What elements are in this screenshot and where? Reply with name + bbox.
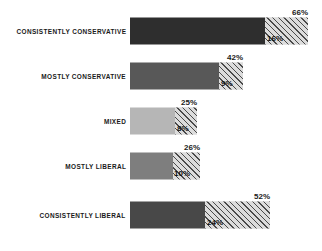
stacked-bar-chart: CONSISTENTLY CONSERVATIVE 66% 16% MOSTLY…	[0, 0, 322, 251]
bar-track: 25% 8%	[130, 107, 197, 134]
bar-total-label: 25%	[181, 97, 197, 106]
chart-row: MIXED 25% 8%	[0, 98, 322, 143]
category-label-text: MOSTLY CONSERVATIVE	[41, 72, 126, 79]
bar-segment-solid	[130, 201, 205, 228]
bar-total-label: 52%	[254, 191, 270, 200]
category-label-text: CONSISTENTLY LIBERAL	[40, 211, 126, 218]
category-label: MOSTLY CONSERVATIVE	[34, 72, 126, 79]
category-label-text: MIXED	[104, 117, 126, 124]
bar-segment-solid	[130, 62, 219, 89]
bar-total-label: 66%	[292, 7, 308, 16]
bar-track: 52% 24%	[130, 201, 270, 228]
category-label: MOSTLY LIBERAL	[60, 162, 126, 169]
chart-row: MOSTLY CONSERVATIVE 42% 9%	[0, 53, 322, 98]
category-label: CONSISTENTLY LIBERAL	[32, 211, 126, 218]
bar-total-label: 42%	[227, 52, 243, 61]
category-label: MIXED	[102, 117, 126, 124]
bar-track: 66% 16%	[130, 17, 308, 44]
bar-track: 26% 10%	[130, 152, 200, 179]
bar-total-label: 26%	[184, 142, 200, 151]
bar-segment-solid	[130, 152, 173, 179]
chart-row: CONSISTENTLY CONSERVATIVE 66% 16%	[0, 8, 322, 53]
bar-segment-solid	[130, 17, 265, 44]
chart-row: CONSISTENTLY LIBERAL 52% 24%	[0, 192, 322, 237]
bar-inner-label: 16%	[267, 33, 283, 42]
bar-inner-label: 10%	[174, 168, 190, 177]
bar-inner-label: 9%	[221, 78, 233, 87]
bar-inner-label: 8%	[177, 123, 189, 132]
bar-track: 42% 9%	[130, 62, 243, 89]
category-label-text: MOSTLY LIBERAL	[65, 162, 126, 169]
chart-row: MOSTLY LIBERAL 26% 10%	[0, 143, 322, 188]
category-label: CONSISTENTLY CONSERVATIVE	[7, 27, 126, 34]
bar-segment-solid	[130, 107, 175, 134]
category-label-text: CONSISTENTLY CONSERVATIVE	[16, 27, 126, 34]
bar-inner-label: 24%	[207, 217, 223, 226]
